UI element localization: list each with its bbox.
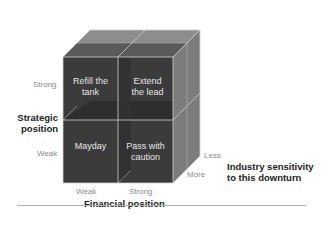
x-tick-weak: Weak <box>76 187 96 197</box>
x-tick-strong: Strong <box>129 187 153 197</box>
quadrant-pass-with-caution: Pass with caution <box>118 141 173 163</box>
z-tick-more: More <box>187 170 205 180</box>
x-axis-title: Financial position <box>84 198 165 209</box>
y-tick-weak: Weak <box>37 149 57 159</box>
bottom-divider <box>17 205 306 206</box>
quadrant-mayday: Mayday <box>63 141 118 152</box>
z-axis-title: Industry sensitivity to this downturn <box>227 161 314 183</box>
y-axis-title: Strategic position <box>15 112 58 134</box>
z-tick-less: Less <box>204 151 221 161</box>
y-tick-strong: Strong <box>33 80 57 90</box>
quadrant-refill-the-tank: Refill the tank <box>63 76 118 98</box>
quadrant-extend-the-lead: Extend the lead <box>120 76 175 98</box>
